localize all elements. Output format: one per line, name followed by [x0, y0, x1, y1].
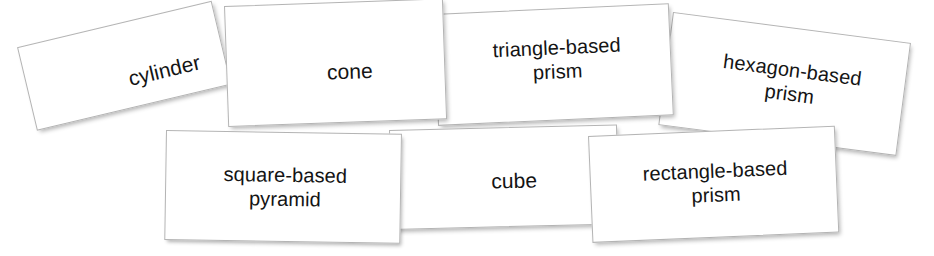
card-cylinder[interactable]: cylinder [17, 1, 231, 131]
card-triangle-based-prism[interactable]: triangle-based prism [433, 3, 674, 126]
card-label-cone: cone [318, 59, 381, 86]
card-label-cylinder: cylinder [118, 48, 210, 93]
card-label-triangle-based-prism: triangle-based prism [484, 34, 630, 88]
card-rectangle-based-prism[interactable]: rectangle-based prism [588, 126, 839, 243]
card-cone[interactable]: cone [224, 0, 447, 127]
shape-card-board: cylinder cone triangle-based prism hexag… [0, 0, 934, 256]
card-cube[interactable]: cube [389, 124, 619, 230]
card-label-hexagon-based-prism: hexagon-based prism [711, 49, 871, 116]
card-label-rectangle-based-prism: rectangle-based prism [634, 156, 797, 210]
card-square-based-pyramid[interactable]: square-based pyramid [164, 130, 402, 244]
card-label-square-based-pyramid: square-based pyramid [215, 163, 355, 212]
card-label-cube: cube [483, 168, 546, 194]
